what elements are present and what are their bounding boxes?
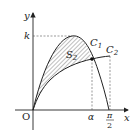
graph-diagram: y x O k α π 2 C1 C2 S2 bbox=[0, 0, 138, 140]
region-s2 bbox=[33, 36, 92, 110]
halfpi-numerator: π bbox=[106, 111, 113, 120]
c2-label: C2 bbox=[106, 44, 119, 57]
origin-label: O bbox=[22, 111, 30, 122]
x-axis-label: x bbox=[124, 112, 130, 123]
c1-label: C1 bbox=[90, 37, 102, 50]
k-label: k bbox=[24, 30, 30, 41]
alpha-label: α bbox=[88, 112, 94, 122]
intersection-point bbox=[90, 57, 94, 61]
halfpi-denominator: 2 bbox=[107, 121, 112, 130]
y-axis-label: y bbox=[23, 10, 30, 21]
